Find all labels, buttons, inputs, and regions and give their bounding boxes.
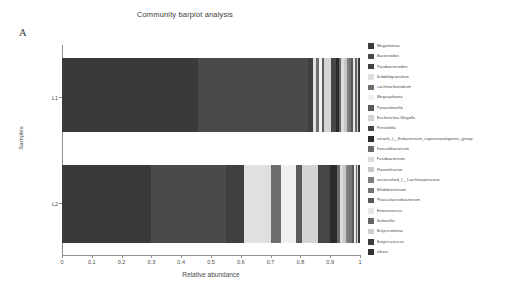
legend-swatch-icon <box>368 208 374 214</box>
x-tick-mark <box>62 255 63 258</box>
bar-segment <box>244 165 271 243</box>
legend-item[interactable]: Phascolarctobacterium <box>368 195 507 205</box>
x-tick-mark <box>271 255 272 258</box>
bar-segment <box>198 58 308 132</box>
legend-item[interactable]: Prevotella <box>368 123 507 133</box>
bar-segment <box>271 165 281 243</box>
bar-segment <box>62 165 151 243</box>
y-tick-mark-L2 <box>59 203 62 204</box>
bar-segment <box>151 165 226 243</box>
legend-swatch-icon <box>368 43 374 49</box>
legend-item[interactable]: Butyricicoccus <box>368 237 507 247</box>
legend-label: Subdoligranulum <box>377 72 409 82</box>
legend-item[interactable]: Megamonas <box>368 41 507 51</box>
y-tick-label-L2: L2 <box>44 201 58 207</box>
legend-item[interactable]: Parasutterella <box>368 103 507 113</box>
legend-swatch-icon <box>368 54 374 60</box>
y-tick-label-L1: L1 <box>44 95 58 101</box>
x-tick-mark <box>92 255 93 258</box>
legend-swatch-icon <box>368 177 374 183</box>
legend-item[interactable]: Flavonifractor <box>368 165 507 175</box>
legend-item[interactable]: Bifidobacterium <box>368 185 507 195</box>
legend-swatch-icon <box>368 115 374 121</box>
x-tick-label: 0.8 <box>290 259 310 265</box>
legend-item[interactable]: norank_f__Eubacterium_coprostanoligenes_… <box>368 134 507 144</box>
stacked-bar-L1 <box>62 58 360 132</box>
legend-swatch-icon <box>368 167 374 173</box>
x-tick-label: 1 <box>350 259 370 265</box>
x-tick-label: 0.3 <box>141 259 161 265</box>
legend-item[interactable]: Enterococcus <box>368 206 507 216</box>
legend-label: Phascolarctobacterium <box>377 195 421 205</box>
legend-swatch-icon <box>368 105 374 111</box>
legend-item[interactable]: Parabacteroides <box>368 62 507 72</box>
x-tick-label: 0.1 <box>82 259 102 265</box>
legend-label: Megasphaera <box>377 92 403 102</box>
legend-item[interactable]: Faecalibacterium <box>368 144 507 154</box>
bar-segment <box>281 165 296 243</box>
legend-item[interactable]: Fusobacterium <box>368 154 507 164</box>
x-tick-mark <box>300 255 301 258</box>
legend-label: norank_f__Eubacterium_coprostanoligenes_… <box>377 134 473 144</box>
legend-swatch-icon <box>368 239 374 245</box>
legend-label: Butyricicoccus <box>377 237 404 247</box>
legend-item[interactable]: unclassified_f__Lachnospiraceae <box>368 175 507 185</box>
legend-label: Bacteroides <box>377 51 400 61</box>
x-tick-label: 0.7 <box>261 259 281 265</box>
bar-segment <box>226 165 244 243</box>
x-tick-label: 0.5 <box>201 259 221 265</box>
bar-segment <box>359 58 360 132</box>
plot-area <box>62 45 360 255</box>
x-tick-mark <box>151 255 152 258</box>
legend-swatch-icon <box>368 249 374 255</box>
legend-label: Sutterella <box>377 216 395 226</box>
legend-label: others <box>377 247 389 257</box>
x-tick-label: 0.4 <box>171 259 191 265</box>
legend-label: Parasutterella <box>377 103 404 113</box>
legend-item[interactable]: Butyricimonas <box>368 226 507 236</box>
x-tick-label: 0.2 <box>112 259 132 265</box>
legend-label: unclassified_f__Lachnospiraceae <box>377 175 440 185</box>
legend-label: Bifidobacterium <box>377 185 407 195</box>
x-axis-title: Relative abundance <box>62 271 360 278</box>
legend-label: Lachnoclostridium <box>377 82 412 92</box>
bar-segment <box>62 58 198 132</box>
x-tick-mark <box>122 255 123 258</box>
y-axis-title: Samples <box>18 108 24 168</box>
legend-swatch-icon <box>368 95 374 101</box>
bar-segment <box>318 165 330 243</box>
bar-segment <box>359 165 360 243</box>
chart-title: Community barplot analysis <box>0 10 370 19</box>
legend-label: Flavonifractor <box>377 165 403 175</box>
legend-label: Prevotella <box>377 123 396 133</box>
legend-item[interactable]: Megasphaera <box>368 92 507 102</box>
x-tick-label: 0.9 <box>320 259 340 265</box>
community-barplot-figure: Community barplot analysis A L1 L2 Sampl… <box>0 0 507 290</box>
x-tick-mark <box>360 255 361 258</box>
legend-swatch-icon <box>368 85 374 91</box>
legend-label: Parabacteroides <box>377 62 408 72</box>
legend-label: Butyricimonas <box>377 226 404 236</box>
legend-swatch-icon <box>368 74 374 80</box>
stacked-bar-L2 <box>62 165 360 243</box>
x-tick-mark <box>211 255 212 258</box>
legend-item[interactable]: Sutterella <box>368 216 507 226</box>
legend: MegamonasBacteroidesParabacteroidesSubdo… <box>368 41 507 257</box>
bar-segment <box>302 165 318 243</box>
x-tick-label: 0 <box>52 259 72 265</box>
x-tick-mark <box>330 255 331 258</box>
y-tick-mark-L1 <box>59 97 62 98</box>
legend-swatch-icon <box>368 198 374 204</box>
legend-item[interactable]: Lachnoclostridium <box>368 82 507 92</box>
legend-swatch-icon <box>368 218 374 224</box>
legend-swatch-icon <box>368 188 374 194</box>
legend-swatch-icon <box>368 146 374 152</box>
legend-item[interactable]: others <box>368 247 507 257</box>
legend-label: Faecalibacterium <box>377 144 410 154</box>
legend-label: Enterococcus <box>377 206 403 216</box>
legend-item[interactable]: Subdoligranulum <box>368 72 507 82</box>
legend-item[interactable]: Bacteroides <box>368 51 507 61</box>
panel-label: A <box>19 27 27 38</box>
legend-item[interactable]: Escherichia-Shigella <box>368 113 507 123</box>
legend-swatch-icon <box>368 126 374 132</box>
